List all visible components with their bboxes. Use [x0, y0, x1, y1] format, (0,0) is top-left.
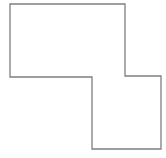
stepped-polygon-outline [10, 4, 161, 149]
diagram-canvas [0, 0, 166, 158]
